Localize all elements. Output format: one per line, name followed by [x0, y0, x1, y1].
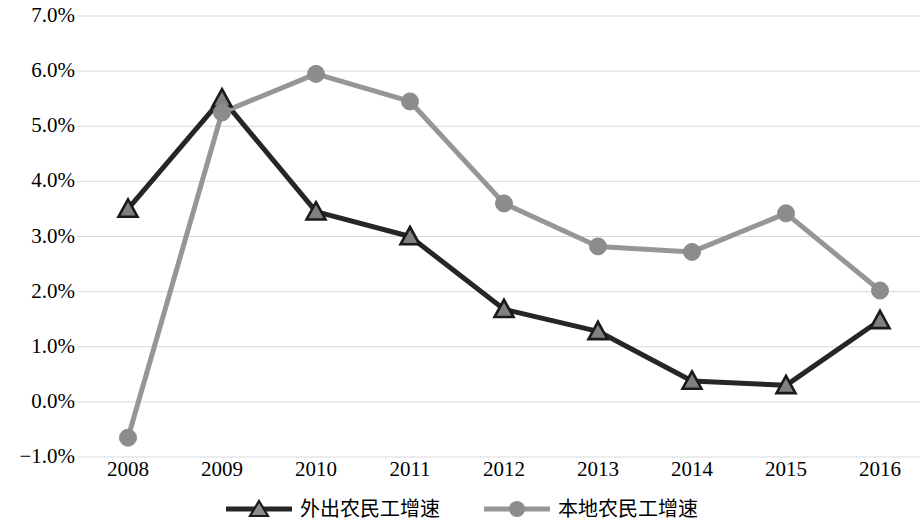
- x-axis: 200820092010201120122013201420152016: [0, 0, 922, 529]
- x-tick-label: 2014: [671, 458, 713, 480]
- legend-entry-bendi: 本地农民工增速: [482, 497, 698, 521]
- x-tick-label: 2009: [201, 458, 243, 480]
- x-tick-label: 2008: [107, 458, 149, 480]
- legend-label-bendi: 本地农民工增速: [558, 497, 698, 521]
- legend-label-waichu: 外出农民工增速: [300, 497, 440, 521]
- x-tick-label: 2013: [577, 458, 619, 480]
- circle-marker-icon: [482, 498, 552, 520]
- x-tick-label: 2011: [389, 458, 430, 480]
- x-tick-label: 2016: [859, 458, 901, 480]
- chart-legend: 外出农民工增速 本地农民工增速: [0, 497, 922, 521]
- triangle-marker-icon: [224, 498, 294, 520]
- x-tick-label: 2010: [295, 458, 337, 480]
- x-tick-label: 2015: [765, 458, 807, 480]
- legend-entry-waichu: 外出农民工增速: [224, 497, 440, 521]
- line-chart: 7.0%6.0%5.0%4.0%3.0%2.0%1.0%0.0%−1.0% 20…: [0, 0, 922, 529]
- x-tick-label: 2012: [483, 458, 525, 480]
